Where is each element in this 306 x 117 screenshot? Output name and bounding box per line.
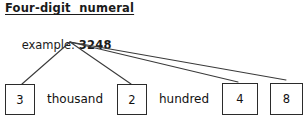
- digit-value: 2: [128, 93, 135, 107]
- digit-box-ones: 8: [270, 83, 303, 115]
- digit-box-hundreds: 2: [117, 84, 147, 115]
- place-label-thousand: thousand: [47, 92, 103, 106]
- example-label: example:: [22, 38, 79, 52]
- example-number: 3248: [79, 38, 112, 52]
- digit-value: 4: [236, 92, 243, 106]
- place-label-hundred: hundred: [159, 92, 209, 106]
- digit-box-thousands: 3: [5, 84, 35, 115]
- digit-value: 3: [16, 93, 23, 107]
- four-digit-numeral-diagram: Four-digit numeral example: 3248 3 2 4 8…: [0, 0, 306, 117]
- page-title: Four-digit numeral: [5, 1, 134, 15]
- example-line: example: 3248: [7, 24, 112, 66]
- digit-value: 8: [283, 92, 290, 106]
- digit-box-tens: 4: [222, 83, 258, 115]
